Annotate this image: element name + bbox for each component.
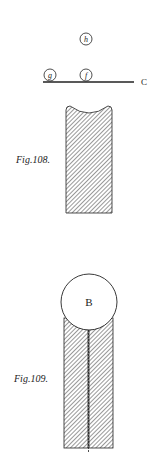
line-label-c: C	[141, 77, 147, 87]
diagram-canvas: h g f C Fig.108. B Fig.109.	[0, 0, 158, 474]
hatched-block-109-right	[89, 318, 113, 448]
figure-109-label: Fig.109.	[13, 373, 48, 384]
figure-108-label: Fig.108.	[15, 154, 50, 165]
point-f-label: f	[85, 71, 89, 80]
point-h-label: h	[84, 35, 88, 44]
ball-b-label: B	[85, 296, 92, 308]
figure-108: h g f C Fig.108.	[15, 33, 147, 213]
figure-109: B Fig.109.	[13, 274, 117, 452]
point-g-label: g	[48, 71, 52, 80]
hatched-block-109-left	[64, 318, 88, 448]
hatched-block-108	[66, 106, 112, 213]
